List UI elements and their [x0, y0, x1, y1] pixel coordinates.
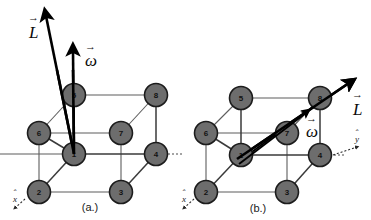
vec-L-text-b: L	[352, 100, 362, 119]
node-7-panel-a: 7	[110, 122, 133, 145]
node-3-panel-a: 3	[110, 181, 133, 204]
node-7-label-a: 7	[119, 129, 124, 138]
panel-a: 5 8 6 7 1	[0, 11, 184, 213]
node-8-panel-a: 8	[145, 84, 168, 107]
panel-a-vector-overlay	[57, 70, 74, 154]
node-4-panel-a: 4	[145, 143, 168, 166]
node-6-label-b: 6	[204, 129, 209, 138]
node-2-panel-a: 2	[28, 181, 51, 204]
panel-b-vector-L-label: → L	[352, 88, 363, 119]
vec-omega-text-b: ω	[306, 122, 318, 141]
node-5-label-b: 5	[239, 94, 244, 103]
node-3-panel-b: 3	[276, 181, 299, 204]
node-6-panel-a: 6	[28, 122, 51, 145]
node-8-label-a: 8	[154, 91, 159, 100]
node-3-label-b: 3	[285, 188, 290, 197]
node-4-panel-b: 4	[309, 144, 332, 167]
node-5-panel-b: 5	[230, 87, 253, 110]
panel-b-vector-omega-label: → ω	[306, 112, 318, 141]
panel-b: 5 8 6 7 1	[181, 83, 363, 214]
node-4-label-a: 4	[154, 150, 159, 159]
node-6-label-a: 6	[37, 129, 42, 138]
panel-b-axis-x: x ˆ	[181, 188, 194, 208]
node-6-panel-b: 6	[195, 122, 218, 145]
panel-a-vector-omega-label: → ω	[85, 40, 97, 70]
panel-b-caption: (b.)	[250, 202, 267, 214]
physics-diagram-figure: 5 8 6 7 1	[0, 0, 371, 220]
panel-a-axis-x: x ˆ	[12, 188, 25, 208]
node-7-label-b: 7	[285, 129, 290, 138]
vec-L-text-a: L	[28, 23, 38, 42]
vec-omega-text-a: ω	[85, 51, 97, 70]
panel-a-nodes: 5 8 6 7 1	[28, 84, 168, 204]
panel-a-caption: (a.)	[82, 201, 99, 213]
vec-L-arrowbar-b: →	[352, 88, 363, 100]
panel-a-vector-L-label: → L	[28, 11, 39, 42]
node-2-panel-b: 2	[195, 181, 218, 204]
node-4-label-b: 4	[318, 151, 323, 160]
panel-b-axis-y: y ˆ	[333, 128, 359, 155]
vec-L-arrowbar-a: →	[28, 11, 39, 23]
node-2-label-b: 2	[204, 188, 209, 197]
node-3-label-a: 3	[119, 188, 124, 197]
node-2-label-a: 2	[37, 188, 42, 197]
panel-b-vector-overlay	[237, 83, 349, 164]
